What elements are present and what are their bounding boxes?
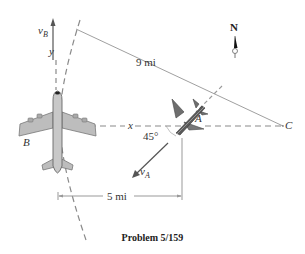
velocity-a-subscript: A	[145, 171, 150, 180]
plane-a-label: A	[195, 113, 202, 124]
angle-label: 45°	[143, 131, 158, 142]
distance-5mi-label: 5 mi	[107, 191, 127, 202]
north-label: N	[230, 21, 238, 33]
velocity-b-label: vB	[38, 25, 48, 39]
point-c-label: C	[285, 120, 292, 131]
plane-b-label: B	[23, 137, 30, 148]
velocity-a-arrow	[132, 143, 168, 178]
y-axis-label: y	[49, 46, 54, 57]
angle-arc	[166, 126, 176, 136]
velocity-b-subscript: B	[43, 30, 48, 39]
airplane-b	[19, 91, 96, 173]
distance-9mi-label: 9 mi	[136, 57, 156, 68]
x-axis-label: x	[128, 120, 133, 131]
compass-icon	[233, 36, 238, 58]
figure-caption: Problem 5/159	[0, 232, 305, 243]
velocity-a-label: vA	[140, 166, 150, 180]
jet-a	[172, 99, 208, 135]
